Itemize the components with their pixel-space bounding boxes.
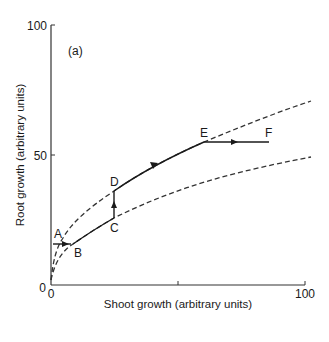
segment-d-to-e (114, 142, 204, 191)
x-axis-title: Shoot growth (arbitrary units) (104, 298, 252, 310)
point-label-a: A (54, 227, 62, 241)
point-label-c: C (110, 221, 119, 235)
lower-dashed-curve (51, 157, 311, 280)
y-tick-label-0: 0 (39, 281, 46, 295)
point-label-b: B (74, 246, 82, 260)
arrowhead-a-to-b (62, 241, 69, 247)
segment-b-to-c (73, 218, 114, 244)
point-label-e: E (200, 126, 208, 140)
y-axis-title: Root growth (arbitrary units) (14, 84, 26, 227)
arrowhead-c-to-d (111, 201, 117, 208)
axes (51, 25, 305, 285)
root-shoot-growth-chart: 100 50 0 0 100 Shoot growth (arbitrary u… (0, 0, 329, 342)
x-tick-label-100: 100 (295, 287, 315, 301)
y-tick-label-50: 50 (34, 149, 48, 163)
panel-label: (a) (68, 44, 83, 58)
point-label-d: D (110, 175, 119, 189)
point-label-f: F (265, 126, 272, 140)
arrowhead-e-to-f (231, 139, 238, 145)
growth-trajectory (53, 139, 269, 247)
y-tick-label-100: 100 (27, 19, 47, 33)
x-tick-label-0: 0 (48, 287, 55, 301)
